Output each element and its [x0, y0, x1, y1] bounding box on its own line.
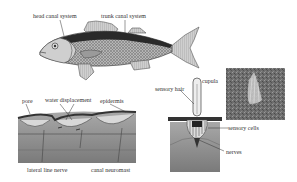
label-water-displacement: water displacement — [45, 97, 91, 103]
fish-illustration — [40, 20, 199, 80]
cupula-micrograph — [226, 68, 285, 120]
label-canal-neuromast: canal neuromast — [91, 167, 130, 173]
neuromast-illustration — [168, 78, 228, 172]
lateral-line-diagram — [0, 0, 297, 182]
label-nerves: nerves — [226, 149, 242, 155]
label-sensory-cells: sensory cells — [228, 125, 259, 131]
lateral-line-cross-section — [18, 104, 136, 163]
label-pore: pore — [22, 98, 33, 104]
label-lateral-line-nerve: lateral line nerve — [27, 167, 67, 173]
label-trunk-canal-system: trunk canal system — [101, 13, 146, 19]
label-epidermis: epidermis — [100, 98, 124, 104]
label-cupula: cupula — [202, 78, 218, 84]
label-head-canal-system: head canal system — [33, 13, 77, 19]
label-sensory-hair: sensory hair — [155, 86, 184, 92]
